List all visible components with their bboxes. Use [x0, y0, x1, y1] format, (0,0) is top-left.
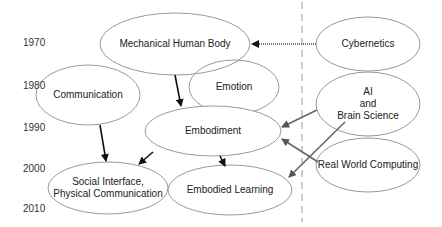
- label-ai-line2: and: [337, 98, 399, 110]
- year-label-2000: 2000: [23, 163, 45, 174]
- edge-rwc-to-embodiment: [282, 139, 318, 162]
- timeline-diagram: 1970 1980 1990 2000 2010 Mechanical Huma…: [0, 0, 442, 227]
- label-mechanical-human-body: Mechanical Human Body: [119, 38, 230, 50]
- label-ai-line1: AI: [337, 86, 399, 98]
- label-ai-brain-science: AI and Brain Science: [337, 86, 399, 122]
- label-emotion: Emotion: [216, 81, 253, 93]
- year-label-1990: 1990: [23, 122, 45, 133]
- label-social-interface-line2: Physical Communication: [53, 188, 163, 200]
- label-social-interface: Social Interface, Physical Communication: [53, 176, 163, 200]
- label-embodied-learning: Embodied Learning: [187, 184, 274, 196]
- label-real-world-computing: Real World Computing: [318, 159, 418, 171]
- label-cybernetics: Cybernetics: [342, 38, 395, 50]
- edge-communication-to-social: [100, 125, 106, 161]
- year-label-1980: 1980: [23, 80, 45, 91]
- edge-embodiment-to-social: [139, 152, 153, 164]
- label-ai-line3: Brain Science: [337, 110, 399, 122]
- edge-mechanical-to-embodiment: [175, 75, 181, 106]
- edge-ai-to-embodiment: [282, 110, 317, 127]
- label-social-interface-line1: Social Interface,: [53, 176, 163, 188]
- label-embodiment: Embodiment: [185, 125, 241, 137]
- year-label-1970: 1970: [23, 37, 45, 48]
- edge-embodiment-to-embodied-learning: [220, 156, 225, 166]
- label-communication: Communication: [53, 89, 122, 101]
- year-label-2010: 2010: [23, 203, 45, 214]
